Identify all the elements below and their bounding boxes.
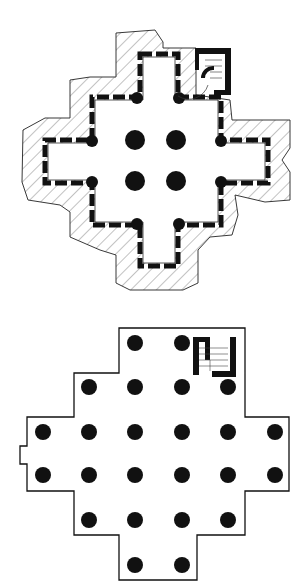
column — [127, 424, 143, 440]
column — [127, 512, 143, 528]
column — [127, 557, 143, 573]
column — [174, 379, 190, 395]
upper-plan — [22, 30, 290, 290]
column — [127, 379, 143, 395]
floor-plans-figure — [0, 0, 307, 582]
column — [125, 171, 145, 191]
column — [166, 130, 186, 150]
column — [174, 512, 190, 528]
column — [81, 512, 97, 528]
column — [35, 467, 51, 483]
column — [267, 424, 283, 440]
column — [125, 130, 145, 150]
column — [267, 467, 283, 483]
column — [81, 379, 97, 395]
column — [127, 335, 143, 351]
lower-plan — [20, 328, 289, 580]
column — [81, 467, 97, 483]
column — [174, 335, 190, 351]
column — [174, 467, 190, 483]
lower-plan-outline — [20, 328, 289, 580]
column — [220, 424, 236, 440]
column — [166, 171, 186, 191]
column — [35, 424, 51, 440]
column — [220, 512, 236, 528]
column — [174, 557, 190, 573]
column — [81, 424, 97, 440]
column — [127, 467, 143, 483]
column — [220, 467, 236, 483]
column — [220, 379, 236, 395]
column — [174, 424, 190, 440]
